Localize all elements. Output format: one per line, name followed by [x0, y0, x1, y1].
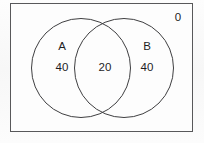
set-intersection-count: 20	[88, 62, 122, 74]
set-a-only-count: 40	[46, 62, 78, 74]
venn-diagram-figure: A 40 20 B 40 0	[0, 0, 204, 143]
outside-sets-count: 0	[168, 12, 188, 24]
set-b-only-count: 40	[131, 62, 163, 74]
set-b-label: B	[131, 41, 163, 53]
set-a-label: A	[46, 41, 78, 53]
